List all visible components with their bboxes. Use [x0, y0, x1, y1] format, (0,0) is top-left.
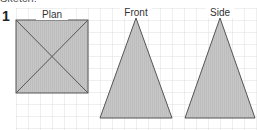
plan-view: Plan	[16, 9, 88, 93]
plan-label: Plan	[42, 9, 62, 20]
front-label: Front	[124, 7, 148, 18]
side-label: Side	[210, 7, 230, 18]
orthographic-views-diagram: Plan Front Side	[0, 0, 257, 130]
